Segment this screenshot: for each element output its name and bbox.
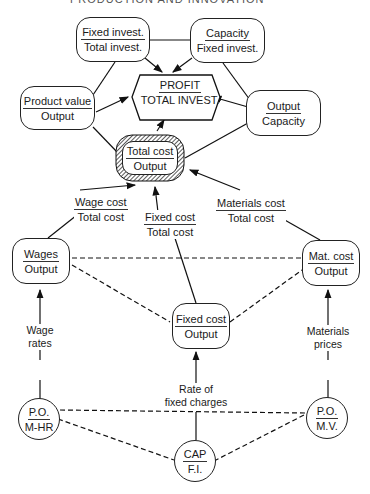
label-line: prices [300, 338, 356, 351]
label-line: Materials [300, 325, 356, 338]
label-denominator: Total cost [228, 211, 274, 225]
node-denominator: Output [314, 264, 347, 278]
node-numerator: Fixed cost [175, 312, 227, 327]
node-denominator: Output [184, 327, 217, 341]
label-numerator: Wage cost [74, 195, 128, 210]
product-value-output-node: Product value Output [20, 86, 95, 130]
node-numerator: Output [266, 99, 301, 114]
label-denominator: Total cost [147, 225, 193, 239]
total-cost-output-node: Total cost Output [122, 141, 178, 175]
materials-cost-total-cost-label: Materials cost Total cost [216, 196, 286, 225]
node-numerator: P.O. [28, 405, 51, 420]
rate-of-fixed-charges-label: Rate of fixed charges [156, 383, 236, 409]
label-denominator: Total cost [78, 210, 124, 224]
node-numerator: P.O. [316, 404, 339, 419]
node-denominator: Output [41, 109, 74, 123]
fixed-cost-output-node: Fixed cost Output [172, 303, 230, 349]
node-denominator: M-HR [25, 420, 54, 434]
label-line: Wage [22, 324, 58, 337]
label-line: fixed charges [156, 396, 236, 409]
node-denominator: M.V. [316, 419, 338, 433]
cap-fi-node: CAP F.I. [174, 440, 216, 482]
po-mv-node: P.O. M.V. [306, 397, 348, 439]
fixed-cost-total-cost-label: Fixed cost Total cost [144, 210, 196, 239]
mat-cost-output-node: Mat. cost Output [302, 240, 360, 286]
profit-numerator: PROFIT [159, 78, 201, 93]
node-numerator: Fixed invest. [81, 25, 145, 40]
node-numerator: Capacity [205, 26, 250, 41]
materials-prices-label: Materials prices [300, 325, 356, 351]
capacity-fixed-invest-node: Capacity Fixed invest. [190, 18, 265, 63]
label-numerator: Materials cost [216, 196, 286, 211]
node-denominator: F.I. [188, 462, 203, 476]
node-denominator: Capacity [262, 114, 305, 128]
label-line: Rate of [156, 383, 236, 396]
label-line: rates [22, 337, 58, 350]
label-numerator: Fixed cost [144, 210, 196, 225]
node-denominator: Fixed invest. [197, 41, 259, 55]
fixed-invest-total-invest-node: Fixed invest. Total invest. [76, 17, 150, 62]
wage-cost-total-cost-label: Wage cost Total cost [74, 195, 128, 224]
po-mhr-node: P.O. M-HR [18, 398, 60, 440]
profit-denominator: TOTAL INVEST. [141, 93, 220, 107]
node-numerator: Wages [23, 247, 59, 262]
node-numerator: Total cost [126, 144, 174, 159]
node-numerator: Product value [23, 94, 92, 109]
node-numerator: Mat. cost [308, 249, 355, 264]
node-numerator: CAP [183, 447, 208, 462]
node-denominator: Output [24, 262, 57, 276]
node-denominator: Output [133, 159, 166, 173]
profit-total-invest-node: PROFIT TOTAL INVEST. [140, 78, 220, 107]
node-denominator: Total invest. [84, 40, 142, 54]
output-capacity-node: Output Capacity [246, 90, 321, 136]
wage-rates-label: Wage rates [22, 324, 58, 350]
wages-output-node: Wages Output [12, 238, 70, 284]
